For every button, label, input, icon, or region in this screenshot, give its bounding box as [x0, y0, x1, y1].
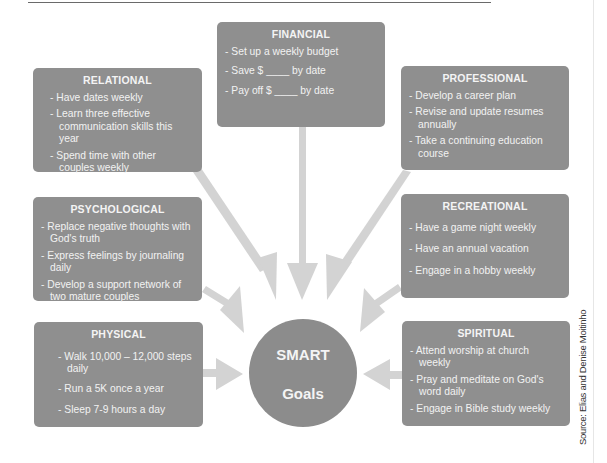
goal-item: - Have a game night weekly	[409, 222, 561, 235]
goal-item: - Learn three effective communication sk…	[41, 108, 194, 146]
goal-item: - Attend worship at church weekly	[410, 345, 562, 370]
box-psychological: PSYCHOLOGICAL - Replace negative thought…	[33, 197, 202, 301]
goal-item: - Engage in a hobby weekly	[409, 265, 561, 278]
box-physical: PHYSICAL - Walk 10,000 – 12,000 steps da…	[34, 322, 203, 427]
goal-item: - Express feelings by journaling daily	[41, 250, 194, 275]
goal-item: - Pay off $ ____ by date	[225, 85, 377, 98]
circle-label-line1: SMART	[249, 346, 357, 363]
goal-item: - Develop a support network of two matur…	[41, 279, 194, 304]
arrow-financial	[287, 127, 318, 300]
goal-item: - Spend time with other couples weekly	[41, 150, 194, 175]
arrow-psychological	[202, 286, 244, 333]
goal-item: - Develop a career plan	[409, 90, 561, 103]
arrow-physical	[203, 358, 243, 390]
box-title: FINANCIAL	[225, 28, 377, 41]
box-title: RECREATIONAL	[409, 200, 561, 213]
circle-label-line2: Goals	[249, 385, 357, 402]
source-credit: Source: Elias and Denise Moitinho	[577, 310, 588, 445]
goal-item: - Sleep 7-9 hours a day	[42, 404, 195, 417]
box-title: RELATIONAL	[41, 74, 194, 87]
goal-item: - Have an annual vacation	[409, 243, 561, 256]
goal-item: - Engage in Bible study weekly	[410, 403, 562, 416]
goal-item: - Set up a weekly budget	[225, 46, 377, 59]
arrow-recreational	[360, 284, 402, 332]
box-financial: FINANCIAL - Set up a weekly budget - Sav…	[217, 22, 385, 127]
smart-goals-circle: SMART Goals	[249, 319, 357, 427]
goal-item: - Pray and meditate on God's word daily	[410, 374, 562, 399]
box-title: PHYSICAL	[42, 328, 195, 341]
goal-item: - Have dates weekly	[41, 92, 194, 105]
arrow-spiritual	[363, 359, 402, 390]
box-relational: RELATIONAL - Have dates weekly - Learn t…	[33, 68, 202, 172]
arrow-relational	[193, 168, 277, 300]
goal-item: - Walk 10,000 – 12,000 steps daily	[42, 351, 195, 376]
arrow-professional	[326, 170, 411, 300]
box-title: PROFESSIONAL	[409, 72, 561, 85]
box-spiritual: SPIRITUAL - Attend worship at church wee…	[402, 321, 570, 426]
goal-item: - Revise and update resumes annually	[409, 106, 561, 131]
goal-item: - Replace negative thoughts with God's t…	[41, 221, 194, 246]
goal-item: - Take a continuing education course	[409, 135, 561, 160]
box-recreational: RECREATIONAL - Have a game night weekly …	[401, 194, 569, 298]
goal-item: - Save $ ____ by date	[225, 65, 377, 78]
box-professional: PROFESSIONAL - Develop a career plan - R…	[401, 66, 569, 170]
box-title: PSYCHOLOGICAL	[41, 203, 194, 216]
box-title: SPIRITUAL	[410, 327, 562, 340]
goal-item: - Run a 5K once a year	[42, 383, 195, 396]
